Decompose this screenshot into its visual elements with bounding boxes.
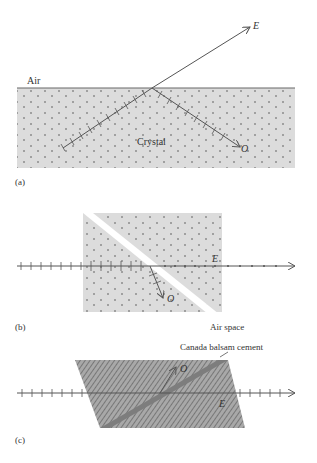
label-air: Air (27, 75, 41, 86)
caption-b: (b) (15, 322, 26, 332)
label-e: E (211, 253, 218, 264)
caption-a: (a) (15, 177, 25, 187)
label-canada-balsam: Canada balsam cement (180, 342, 263, 352)
caption-c: (c) (15, 435, 25, 445)
label-o: O (180, 363, 187, 374)
birefringence-diagram: Air Crystal E O (a) E (0, 0, 317, 463)
panel-b: E O Air space (b) (15, 213, 295, 332)
label-e: E (218, 398, 225, 409)
label-o: O (167, 293, 174, 304)
panel-a: Air Crystal E O (a) (15, 20, 295, 187)
e-ray (152, 27, 250, 88)
cement-leader-line (220, 352, 228, 357)
label-air-space: Air space (210, 322, 244, 332)
panel-c: O E Canada balsam cement (c) (15, 342, 295, 445)
label-crystal: Crystal (137, 136, 166, 147)
label-e: E (252, 20, 259, 31)
label-o: O (241, 143, 248, 154)
